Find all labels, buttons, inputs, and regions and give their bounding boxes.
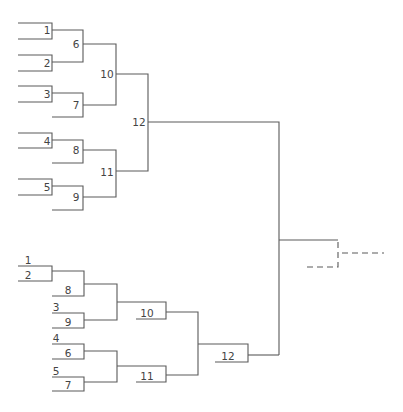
match-label: 11	[100, 166, 113, 178]
match-label: 10	[100, 68, 113, 80]
seed-label: 4	[44, 135, 51, 147]
match-label: 11	[140, 370, 153, 382]
seed-label: 3	[44, 88, 51, 100]
seed-label: 1	[44, 24, 51, 36]
lower-bracket-labels: 1 2 8 3 9 4 6 5 7 10 11 12	[25, 254, 235, 391]
lower-match-8-9	[84, 284, 117, 320]
grand-final-lines	[279, 240, 384, 267]
match-label: 12	[132, 116, 145, 128]
if-necessary-bracket	[306, 242, 338, 267]
seed-label: 7	[65, 379, 72, 391]
lower-semifinal-connector	[166, 312, 198, 375]
match-label: 10	[140, 307, 153, 319]
seed-label: 4	[53, 332, 60, 344]
seed-label: 2	[44, 57, 51, 69]
match-label: 9	[73, 191, 80, 203]
match-label: 6	[73, 38, 80, 50]
match-label: 8	[73, 144, 80, 156]
upper-bracket-labels: 1 2 3 4 5 6 7 8 9 10 11 12	[44, 24, 146, 203]
seed-label: 3	[53, 301, 60, 313]
seed-label: 9	[65, 316, 72, 328]
lower-match-6-7	[84, 351, 117, 382]
seed-label: 6	[65, 347, 72, 359]
upper-winner-line	[148, 122, 279, 355]
lower-match-1-2	[18, 266, 52, 281]
double-elimination-bracket: 1 2 3 4 5 6 7 8 9 10 11 12 1 2 8 3 9 4 6…	[0, 0, 403, 412]
match-label: 7	[73, 99, 80, 111]
seed-label: 8	[65, 284, 72, 296]
seed-label: 2	[25, 269, 32, 281]
seed-label: 5	[53, 365, 60, 377]
seed-label: 1	[25, 254, 32, 266]
seed-label: 5	[44, 181, 51, 193]
match-label: 12	[221, 350, 234, 362]
